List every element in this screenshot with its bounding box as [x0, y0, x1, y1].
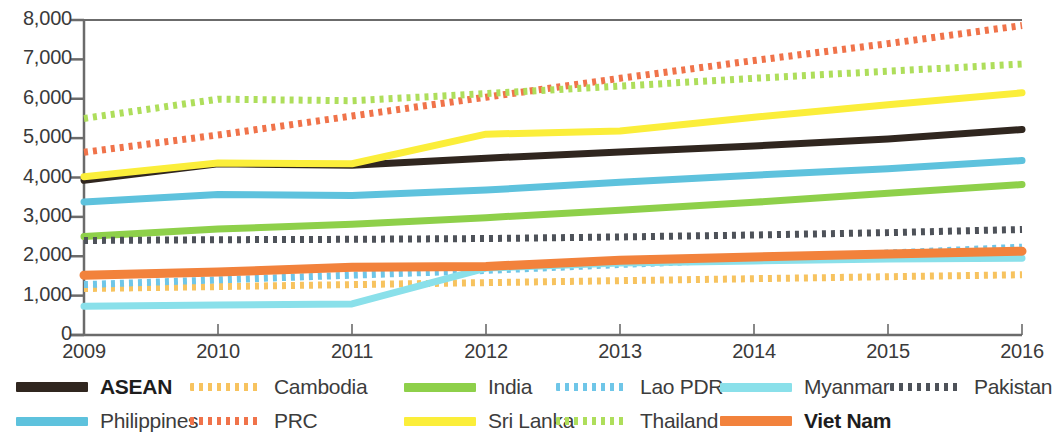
- series-line-thailand: [84, 64, 1022, 118]
- y-axis-tick-label: 2,000: [0, 243, 72, 266]
- legend-item-viet-nam[interactable]: Viet Nam: [720, 406, 891, 436]
- series-line-viet-nam: [84, 251, 1022, 275]
- legend-item-myanmar[interactable]: Myanmar: [720, 372, 889, 402]
- x-axis-tick-label: 2016: [977, 340, 1056, 363]
- legend-swatch-icon: [404, 417, 476, 426]
- x-axis-tick-label: 2012: [441, 340, 531, 363]
- x-axis-tick-label: 2011: [307, 340, 397, 363]
- legend-swatch-icon: [720, 383, 792, 392]
- legend-label: Viet Nam: [804, 409, 891, 433]
- y-axis-tick-label: 1,000: [0, 283, 72, 306]
- x-axis-tick-label: 2010: [173, 340, 263, 363]
- legend-item-lao-pdr[interactable]: Lao PDR: [556, 372, 723, 402]
- legend-item-pakistan[interactable]: Pakistan: [890, 372, 1052, 402]
- line-chart-svg: [0, 0, 1032, 372]
- legend-label: ASEAN: [100, 375, 172, 399]
- legend-swatch-icon: [720, 416, 792, 426]
- legend-label: Thailand: [640, 409, 718, 433]
- legend-swatch-icon: [556, 383, 628, 391]
- legend-label: Cambodia: [274, 375, 367, 399]
- legend-label: Pakistan: [974, 375, 1052, 399]
- x-axis-tick-label: 2013: [575, 340, 665, 363]
- legend-swatch-icon: [890, 383, 962, 391]
- legend-label: Philippines: [100, 409, 198, 433]
- x-axis-tick-label: 2014: [709, 340, 799, 363]
- y-axis-tick-label: 7,000: [0, 46, 72, 69]
- series-line-cambodia: [84, 275, 1022, 289]
- legend-item-asean[interactable]: ASEAN: [16, 372, 172, 402]
- legend-item-philippines[interactable]: Philippines: [16, 406, 198, 436]
- legend-swatch-icon: [16, 382, 88, 392]
- legend-item-thailand[interactable]: Thailand: [556, 406, 718, 436]
- legend-label: Lao PDR: [640, 375, 723, 399]
- y-axis-tick-label: 5,000: [0, 125, 72, 148]
- legend-swatch-icon: [16, 417, 88, 426]
- legend-swatch-icon: [556, 417, 628, 425]
- y-axis-tick-label: 4,000: [0, 165, 72, 188]
- legend-item-cambodia[interactable]: Cambodia: [190, 372, 367, 402]
- chart-plot-area: 01,0002,0003,0004,0005,0006,0007,0008,00…: [0, 0, 1032, 372]
- legend-label: India: [488, 375, 532, 399]
- legend-label: PRC: [274, 409, 317, 433]
- legend-swatch-icon: [404, 383, 476, 392]
- legend-item-india[interactable]: India: [404, 372, 532, 402]
- legend-item-sri-lanka[interactable]: Sri Lanka: [404, 406, 574, 436]
- y-axis-tick-label: 8,000: [0, 7, 72, 30]
- x-axis-tick-label: 2009: [39, 340, 129, 363]
- legend-swatch-icon: [190, 383, 262, 391]
- series-line-sri-lanka: [84, 93, 1022, 177]
- x-axis-tick-label: 2015: [843, 340, 933, 363]
- legend-item-prc[interactable]: PRC: [190, 406, 317, 436]
- y-axis-tick-label: 3,000: [0, 204, 72, 227]
- chart-legend: ASEANCambodiaIndiaLao PDRMyanmarPakistan…: [0, 370, 1032, 440]
- legend-label: Myanmar: [804, 375, 889, 399]
- legend-swatch-icon: [190, 417, 262, 425]
- y-axis-tick-label: 6,000: [0, 86, 72, 109]
